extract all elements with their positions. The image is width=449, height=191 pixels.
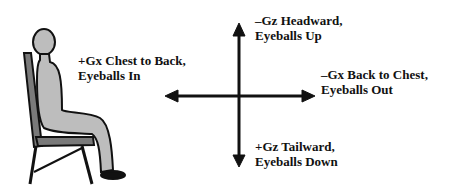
arrow-right-icon [302, 90, 315, 102]
arrow-down-icon [233, 155, 245, 167]
label-minus-gx: –Gx Back to Chest, Eyeballs Out [321, 67, 428, 97]
seated-person-icon [33, 29, 125, 179]
arrow-left-icon [165, 90, 178, 102]
label-minus-gz: –Gz Headward, Eyeballs Up [255, 13, 342, 43]
label-plus-gx: +Gx Chest to Back, Eyeballs In [78, 53, 186, 83]
g-force-diagram: +Gx Chest to Back, Eyeballs In –Gz Headw… [0, 0, 449, 191]
arrow-up-icon [233, 23, 245, 36]
label-plus-gz: +Gz Tailward, Eyeballs Down [255, 139, 338, 169]
